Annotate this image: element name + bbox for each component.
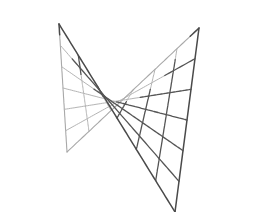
grid-line-v-1-back bbox=[60, 45, 72, 59]
mesh-front-layer bbox=[59, 24, 199, 212]
grid-line-v-3-front bbox=[117, 102, 187, 120]
grid-line-v-1-front bbox=[72, 59, 179, 181]
grid-line-v-4-back bbox=[64, 97, 140, 109]
grid-line-v-5-front bbox=[165, 59, 195, 76]
grid-line-v-4-front bbox=[140, 89, 191, 97]
saddle-surface-wireframe bbox=[0, 0, 258, 212]
grid-line-u-5-front bbox=[156, 60, 176, 181]
grid-line-v-0-front bbox=[59, 24, 175, 212]
mesh-back-layer bbox=[60, 35, 191, 152]
